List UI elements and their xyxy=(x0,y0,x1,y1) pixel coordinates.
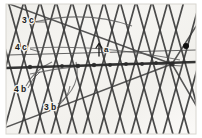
lattice-node xyxy=(108,63,112,67)
lattice-figure-canvas: 3 c 4 c 4 b 3 b a xyxy=(0,0,202,138)
lattice-node xyxy=(76,64,80,68)
label-4c: 4 c xyxy=(15,42,27,52)
lattice-node xyxy=(28,65,32,69)
lattice-node xyxy=(169,61,174,66)
lattice-node xyxy=(154,61,158,65)
label-4b: 4 b xyxy=(14,84,26,94)
label-3b: 3 b xyxy=(44,102,56,112)
lattice-figure: 3 c 4 c 4 b 3 b a xyxy=(0,0,202,138)
label-3c: 3 c xyxy=(22,15,34,25)
lattice-node xyxy=(140,62,144,66)
lattice-node xyxy=(124,62,128,66)
lattice-node xyxy=(60,64,64,68)
diffraction-spot xyxy=(183,43,189,49)
label-a-axis: a xyxy=(104,45,109,54)
lattice-node xyxy=(92,63,96,67)
